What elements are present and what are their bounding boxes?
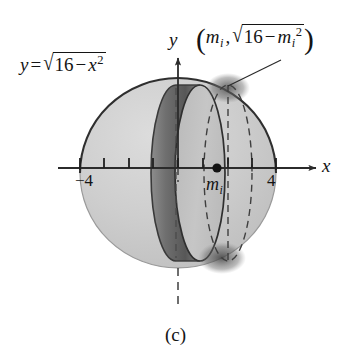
point-radicand: 16−mi2 [242,24,304,49]
x-tick-label-4: 4 [267,172,276,189]
point-radicand-minus: − [263,26,278,47]
sample-point-marker [212,163,221,172]
curve-equation-label: y=√16−x2 [20,52,106,74]
equation-radicand-exponent: 2 [97,53,103,67]
x-tick-label-minus-4: −4 [75,172,93,189]
x-axis-label: x [322,156,330,175]
y-axis-label: y [169,30,177,49]
equation-radicand-variable: x [88,54,96,75]
figure-container: y=√16−x2 (mi,√16−mi2) x y −4 4 mi (c) [0,0,351,362]
disk-front-face [175,85,225,261]
equation-radical: √16−x2 [43,52,105,74]
point-comma: , [224,26,233,47]
point-x-subscript: i [220,36,223,50]
equation-radicand: 16−x2 [53,52,106,74]
point-radicand-number: 16 [244,26,263,47]
point-x-variable: m [206,26,220,47]
point-radicand-variable: m [277,26,291,47]
point-coordinates-label: (mi,√16−mi2) [196,24,314,55]
point-label-leader-line [228,60,281,86]
equation-equals: = [28,54,43,75]
point-radical: √16−mi2 [232,24,304,49]
equation-radicand-minus: − [74,54,89,75]
sample-point-variable: m [206,174,219,194]
equation-radicand-number: 16 [55,54,74,75]
point-open-paren: ( [196,23,206,55]
point-close-paren: ) [304,23,314,55]
sample-point-subscript: i [220,183,223,197]
point-radicand-exponent: 2 [296,25,302,39]
radical-sign: √ [43,51,53,73]
sample-point-label: mi [206,175,223,196]
point-radicand-subscript: i [292,36,295,50]
point-radical-sign: √ [232,23,242,45]
representative-disk [151,85,225,261]
figure-caption: (c) [0,324,351,346]
